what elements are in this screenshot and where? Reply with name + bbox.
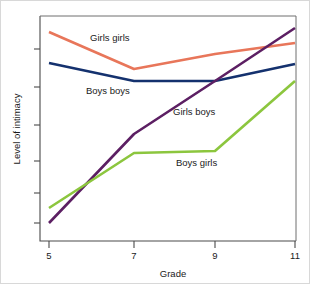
line-chart-svg: 5 7 9 11 Grade Level of intimacy Girls g… bbox=[1, 1, 310, 284]
series-label-girls-boys: Girls boys bbox=[173, 106, 215, 117]
x-tick-label-2: 9 bbox=[212, 250, 217, 261]
series-line-boys-girls bbox=[49, 81, 295, 208]
axis-lines bbox=[40, 16, 296, 241]
series-lines bbox=[49, 28, 295, 223]
series-line-boys-boys bbox=[49, 63, 295, 81]
x-axis-ticks bbox=[49, 241, 295, 248]
plot-frame bbox=[40, 16, 296, 241]
x-tick-labels: 5 7 9 11 bbox=[46, 250, 300, 261]
frame-top-right bbox=[40, 16, 296, 241]
x-tick-label-1: 7 bbox=[131, 250, 136, 261]
series-annotations: Girls girls Boys boys Girls boys Boys gi… bbox=[86, 32, 217, 168]
x-tick-label-0: 5 bbox=[46, 250, 51, 261]
x-tick-label-3: 11 bbox=[290, 250, 300, 261]
series-label-girls-girls: Girls girls bbox=[90, 32, 130, 43]
chart-figure: 5 7 9 11 Grade Level of intimacy Girls g… bbox=[0, 0, 310, 284]
x-axis-title: Grade bbox=[160, 268, 186, 279]
series-line-girls-boys bbox=[49, 28, 295, 223]
y-axis-title: Level of intimacy bbox=[11, 93, 22, 164]
series-line-girls-girls bbox=[49, 32, 295, 69]
y-axis-ticks bbox=[34, 49, 40, 223]
series-label-boys-boys: Boys boys bbox=[86, 85, 130, 96]
series-label-boys-girls: Boys girls bbox=[176, 157, 217, 168]
